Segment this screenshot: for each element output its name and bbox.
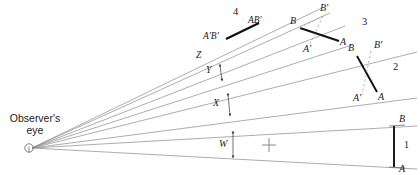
point-label-obj4-AB: AB' xyxy=(248,16,262,26)
point-label-obj3-Bprime: B' xyxy=(320,3,328,13)
point-label-obj2-B: B xyxy=(348,43,354,53)
point-label-obj2-Aprime: A' xyxy=(353,93,361,103)
object-3-segment xyxy=(300,28,339,41)
point-label-obj4-AprimeBprime: A'B' xyxy=(203,32,219,42)
optics-diagram: Observer's eye W X Y Z 1 2 3 4 B A B B' … xyxy=(0,0,420,175)
observer-eye-label-line2: eye xyxy=(2,124,68,136)
gap-label-Y: Y xyxy=(206,66,211,76)
gap-label-W: W xyxy=(219,139,227,149)
gap-arrow-Y xyxy=(220,66,222,80)
diagram-canvas xyxy=(0,0,420,175)
object-number-2: 2 xyxy=(393,62,398,73)
ray-upper-edge xyxy=(32,8,322,148)
observer-eye-label-line1: Observer's xyxy=(2,112,68,124)
object-2-segment xyxy=(357,56,377,92)
gap-arrow-X xyxy=(228,95,230,115)
point-label-obj1-B: B xyxy=(399,114,405,124)
ray-to-obj3-B xyxy=(32,26,345,148)
gap-label-X: X xyxy=(213,98,219,108)
center-crosshair xyxy=(262,138,276,152)
observer-eye-label: Observer's eye xyxy=(2,112,68,136)
object-number-4: 4 xyxy=(233,7,238,18)
object-1-end-ticks xyxy=(389,125,405,168)
object-number-3: 3 xyxy=(362,17,367,28)
object-number-1: 1 xyxy=(404,140,409,150)
point-label-obj2-A: A xyxy=(378,92,384,102)
point-label-obj3-Aprime: A' xyxy=(303,44,311,54)
gap-label-Z: Z xyxy=(196,51,201,61)
point-label-obj2-Bprime: B' xyxy=(374,40,382,50)
point-label-obj3-A: A xyxy=(340,37,346,47)
point-label-obj3-B: B xyxy=(290,16,296,26)
point-label-obj1-A: A xyxy=(399,164,405,174)
ray-to-obj4-A xyxy=(32,13,330,148)
ray-to-obj1-A xyxy=(32,148,417,169)
